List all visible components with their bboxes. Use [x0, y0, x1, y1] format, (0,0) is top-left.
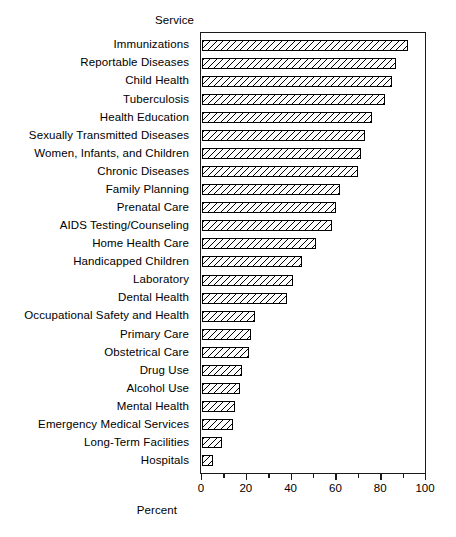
- x-tick-minor: [403, 474, 404, 478]
- category-label: Primary Care: [0, 325, 195, 343]
- bar: [202, 401, 236, 412]
- bar: [202, 130, 366, 141]
- bar-row: [202, 398, 426, 416]
- category-label: Women, Infants, and Children: [0, 144, 195, 162]
- x-tick-major: [380, 474, 381, 480]
- bar-row: [202, 217, 426, 235]
- bar: [202, 166, 359, 177]
- x-axis-title-text: Percent: [137, 504, 177, 516]
- category-label: Laboratory: [0, 271, 195, 289]
- x-tick-minor: [313, 474, 314, 478]
- bar-row: [202, 126, 426, 144]
- bar: [202, 455, 213, 466]
- bar: [202, 347, 249, 358]
- x-tick-minor: [223, 474, 224, 478]
- bar: [202, 148, 361, 159]
- bar-row: [202, 361, 426, 379]
- bar-row: [202, 343, 426, 361]
- category-label: Occupational Safety and Health: [0, 307, 195, 325]
- bar-row: [202, 199, 426, 217]
- category-label: Hospitals: [0, 452, 195, 470]
- bars-container: [202, 36, 426, 470]
- bar: [202, 58, 397, 69]
- category-label: Tuberculosis: [0, 90, 195, 108]
- category-label: Obstetrical Care: [0, 343, 195, 361]
- bar-row: [202, 235, 426, 253]
- x-tick-label: 100: [415, 482, 434, 494]
- category-label: Sexually Transmitted Diseases: [0, 126, 195, 144]
- bar: [202, 365, 242, 376]
- bar: [202, 256, 303, 267]
- bar-row: [202, 36, 426, 54]
- category-label: Health Education: [0, 108, 195, 126]
- category-label: Emergency Medical Services: [0, 416, 195, 434]
- category-label: Drug Use: [0, 361, 195, 379]
- bar-row: [202, 416, 426, 434]
- bar: [202, 311, 256, 322]
- bar: [202, 112, 372, 123]
- bar-row: [202, 90, 426, 108]
- bar-row: [202, 144, 426, 162]
- bar-row: [202, 54, 426, 72]
- bar-row: [202, 271, 426, 289]
- category-label: Chronic Diseases: [0, 163, 195, 181]
- x-axis-title: Percent: [0, 504, 456, 516]
- bar: [202, 329, 251, 340]
- category-label: Dental Health: [0, 289, 195, 307]
- bar: [202, 94, 386, 105]
- category-label: Prenatal Care: [0, 199, 195, 217]
- bar: [202, 184, 341, 195]
- category-label: Alcohol Use: [0, 379, 195, 397]
- bar: [202, 383, 240, 394]
- category-axis-title: Service: [155, 14, 194, 26]
- x-tick-minor: [268, 474, 269, 478]
- bar: [202, 238, 316, 249]
- bar: [202, 419, 233, 430]
- x-tick-major: [335, 474, 336, 480]
- bar-row: [202, 434, 426, 452]
- category-label: Home Health Care: [0, 235, 195, 253]
- bar-row: [202, 307, 426, 325]
- bar-row: [202, 379, 426, 397]
- bar-row: [202, 253, 426, 271]
- category-label: Reportable Diseases: [0, 54, 195, 72]
- bar: [202, 220, 332, 231]
- bar: [202, 202, 336, 213]
- bar-row: [202, 72, 426, 90]
- bar-row: [202, 289, 426, 307]
- category-label: Family Planning: [0, 181, 195, 199]
- bar-row: [202, 163, 426, 181]
- category-label: Immunizations: [0, 36, 195, 54]
- x-axis-tick-labels: 020406080100: [0, 482, 456, 498]
- x-tick-label: 20: [239, 482, 252, 494]
- bar: [202, 437, 222, 448]
- x-tick-major: [425, 474, 426, 480]
- x-tick-minor: [358, 474, 359, 478]
- x-tick-label: 60: [329, 482, 342, 494]
- bar-chart: Service ImmunizationsReportable Diseases…: [0, 0, 456, 537]
- bar: [202, 293, 287, 304]
- bar: [202, 40, 408, 51]
- x-tick-label: 40: [284, 482, 297, 494]
- category-label: Child Health: [0, 72, 195, 90]
- bar-row: [202, 452, 426, 470]
- x-tick-label: 0: [198, 482, 204, 494]
- x-tick-major: [201, 474, 202, 480]
- x-tick-label: 80: [374, 482, 387, 494]
- category-label: Mental Health: [0, 398, 195, 416]
- category-label: Long-Term Facilities: [0, 434, 195, 452]
- category-label: Handicapped Children: [0, 253, 195, 271]
- category-axis-labels: ImmunizationsReportable DiseasesChild He…: [0, 36, 195, 470]
- x-tick-major: [246, 474, 247, 480]
- bar: [202, 76, 392, 87]
- category-label: AIDS Testing/Counseling: [0, 217, 195, 235]
- bar-row: [202, 108, 426, 126]
- x-axis-ticks: [200, 474, 426, 480]
- bar: [202, 275, 294, 286]
- bar-row: [202, 325, 426, 343]
- bar-row: [202, 181, 426, 199]
- x-tick-major: [291, 474, 292, 480]
